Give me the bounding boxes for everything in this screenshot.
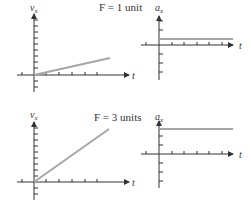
svg-text:vx: vx xyxy=(30,2,38,15)
acceleration-graph-f1: ax t xyxy=(141,2,242,80)
force-motion-diagram: vx t F = 1 unit ax t xyxy=(0,0,251,215)
svg-text:t: t xyxy=(239,149,242,160)
svg-text:ax: ax xyxy=(155,111,164,124)
svg-text:vx: vx xyxy=(30,109,38,122)
force-label-f3: F = 3 units xyxy=(94,111,141,123)
acceleration-graph-f3: ax t xyxy=(141,111,242,188)
svg-text:ax: ax xyxy=(155,2,164,15)
force-label-f1: F = 1 unit xyxy=(99,1,142,13)
x-axis-label: t xyxy=(132,70,135,81)
svg-text:t: t xyxy=(132,177,135,188)
velocity-line-f3 xyxy=(34,129,109,182)
svg-text:t: t xyxy=(239,40,242,51)
velocity-graph-f1: vx t xyxy=(17,2,135,92)
